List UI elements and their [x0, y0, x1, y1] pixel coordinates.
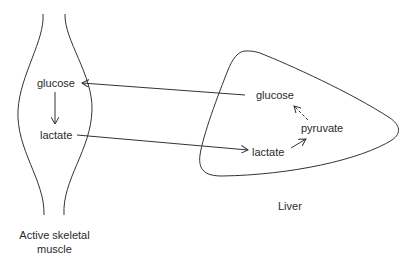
pyruvate-to-glucose-dashed-arrow	[294, 106, 308, 120]
liver-lactate-label: lactate	[252, 146, 284, 159]
liver-outline	[200, 51, 399, 176]
muscle-lactate-label: lactate	[40, 129, 72, 142]
muscle-caption-line1: Active skeletal	[12, 228, 97, 242]
lactate-transport-arrow	[77, 135, 248, 150]
muscle-outline-left	[18, 14, 44, 215]
liver-pyruvate-label: pyruvate	[301, 122, 343, 135]
liver-glucose-label: glucose	[256, 89, 294, 102]
muscle-outline-right	[64, 14, 92, 215]
muscle-glucose-label: glucose	[37, 77, 75, 90]
lactate-to-pyruvate-arrow	[291, 139, 306, 148]
muscle-caption: Active skeletal muscle	[12, 228, 97, 256]
liver-caption: Liver	[278, 200, 302, 213]
muscle-caption-line2: muscle	[12, 242, 97, 256]
